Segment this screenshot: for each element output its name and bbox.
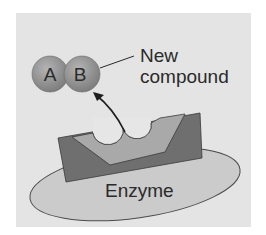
label-leader-line xyxy=(100,56,134,68)
new-compound-label-line2: compound xyxy=(140,66,229,87)
new-compound-label-line1: New xyxy=(140,45,178,66)
enzyme-diagram: A B New compound Enzyme xyxy=(0,0,266,235)
new-compound-molecule: A B xyxy=(32,56,100,92)
enzyme-label: Enzyme xyxy=(105,180,174,201)
molecule-b-label: B xyxy=(74,64,87,85)
molecule-a-label: A xyxy=(44,64,57,85)
